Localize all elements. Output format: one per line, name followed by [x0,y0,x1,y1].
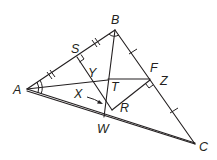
right-angle-mark-z [146,84,154,89]
segment-sr [77,57,112,110]
label-z: Z [159,74,168,88]
label-r: R [120,101,129,115]
segment-bw [104,30,115,117]
tick-sb-2 [95,38,100,45]
side-ac [27,91,195,144]
label-t: T [111,80,120,94]
side-bc [115,30,195,144]
label-s: S [71,42,80,56]
label-b: B [111,13,119,27]
segment-ar [27,89,195,143]
geometry-diagram: A B C S Y T F Z X R W [0,0,217,160]
label-x: X [73,87,83,101]
label-w: W [97,122,110,136]
tick-sb-1 [92,40,97,47]
label-f: F [150,61,159,75]
label-y: Y [88,66,98,80]
label-a: A [12,83,21,97]
label-c: C [199,140,209,154]
